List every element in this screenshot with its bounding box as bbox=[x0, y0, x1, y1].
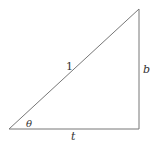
hypotenuse-label: 1 bbox=[66, 61, 73, 72]
horizontal-side-label: t bbox=[71, 131, 75, 142]
triangle-figure bbox=[0, 0, 160, 149]
angle-label: θ bbox=[26, 119, 32, 129]
right-triangle bbox=[9, 9, 139, 129]
vertical-side-label: b bbox=[143, 64, 150, 75]
